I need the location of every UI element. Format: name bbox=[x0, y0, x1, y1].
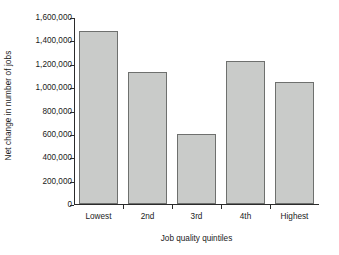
x-tick-mark bbox=[221, 205, 222, 209]
x-axis-line bbox=[74, 204, 319, 205]
x-tick-label: Lowest bbox=[74, 212, 123, 221]
y-tick-mark bbox=[70, 158, 74, 159]
bar-chart-figure: Net change in number of jobs 0200,000400… bbox=[0, 0, 339, 255]
y-tick-mark bbox=[70, 135, 74, 136]
x-tick-label: Highest bbox=[270, 212, 319, 221]
y-tick-mark bbox=[70, 182, 74, 183]
plot-area bbox=[74, 18, 319, 205]
bar bbox=[79, 31, 118, 204]
x-tick-mark bbox=[172, 205, 173, 209]
y-tick-label: 200,000 bbox=[14, 178, 72, 186]
y-tick-mark bbox=[70, 65, 74, 66]
x-tick-label: 2nd bbox=[123, 212, 172, 221]
y-tick-label: 1,600,000 bbox=[14, 14, 72, 22]
x-axis-title: Job quality quintiles bbox=[74, 234, 319, 243]
x-tick-mark bbox=[123, 205, 124, 209]
y-tick-label: 1,400,000 bbox=[14, 37, 72, 45]
y-tick-mark bbox=[70, 18, 74, 19]
y-tick-label: 400,000 bbox=[14, 154, 72, 162]
y-tick-label: 0 bbox=[14, 201, 72, 209]
y-axis-line bbox=[74, 18, 75, 205]
y-axis-tick-labels: 0200,000400,000600,000800,0001,000,0001,… bbox=[14, 0, 72, 214]
y-axis-title-text: Net change in number of jobs bbox=[5, 50, 14, 160]
x-tick-label: 3rd bbox=[172, 212, 221, 221]
bar bbox=[128, 72, 167, 204]
y-tick-mark bbox=[70, 41, 74, 42]
y-tick-label: 600,000 bbox=[14, 131, 72, 139]
bar bbox=[275, 82, 314, 204]
y-tick-mark bbox=[70, 205, 74, 206]
bar bbox=[226, 61, 265, 204]
x-tick-mark bbox=[270, 205, 271, 209]
x-tick-label: 4th bbox=[221, 212, 270, 221]
y-tick-mark bbox=[70, 112, 74, 113]
y-tick-mark bbox=[70, 88, 74, 89]
y-tick-label: 1,000,000 bbox=[14, 84, 72, 92]
y-tick-label: 1,200,000 bbox=[14, 61, 72, 69]
y-tick-label: 800,000 bbox=[14, 108, 72, 116]
bar bbox=[177, 134, 216, 204]
x-axis-tick-labels: Lowest2nd3rd4thHighest bbox=[74, 212, 319, 226]
